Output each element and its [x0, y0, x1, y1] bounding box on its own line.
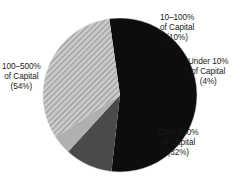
slice-label-line-2: of Capital	[158, 138, 199, 148]
slice-label-line-2: of Capital	[188, 67, 229, 77]
slice-label-value: (4%)	[188, 77, 229, 87]
pie-chart: 10–100% of Capital (10%) Under 10% of Ca…	[0, 0, 248, 184]
slice-label-10-100-of-capital: 10–100% of Capital (10%)	[160, 13, 194, 44]
slice-label-line-1: 10–100%	[160, 13, 194, 23]
slice-label-line-1: 100–500%	[2, 62, 41, 72]
slice-label-under-10-of-capital: Under 10% of Capital (4%)	[188, 57, 229, 88]
slice-label-line-1: Under 10%	[188, 57, 229, 67]
slice-label-line-2: of Capital	[160, 23, 194, 33]
slice-label-line-2: of Capital	[2, 72, 41, 82]
slice-label-value: (54%)	[2, 82, 41, 92]
slice-label-value: (32%)	[158, 148, 199, 158]
slice-label-line-1: Over 500%	[158, 128, 199, 138]
slice-label-value: (10%)	[160, 33, 194, 43]
slice-label-over-500-of-capital: Over 500% of Capital (32%)	[158, 128, 199, 159]
slice-label-100-500-of-capital: 100–500% of Capital (54%)	[2, 62, 41, 93]
